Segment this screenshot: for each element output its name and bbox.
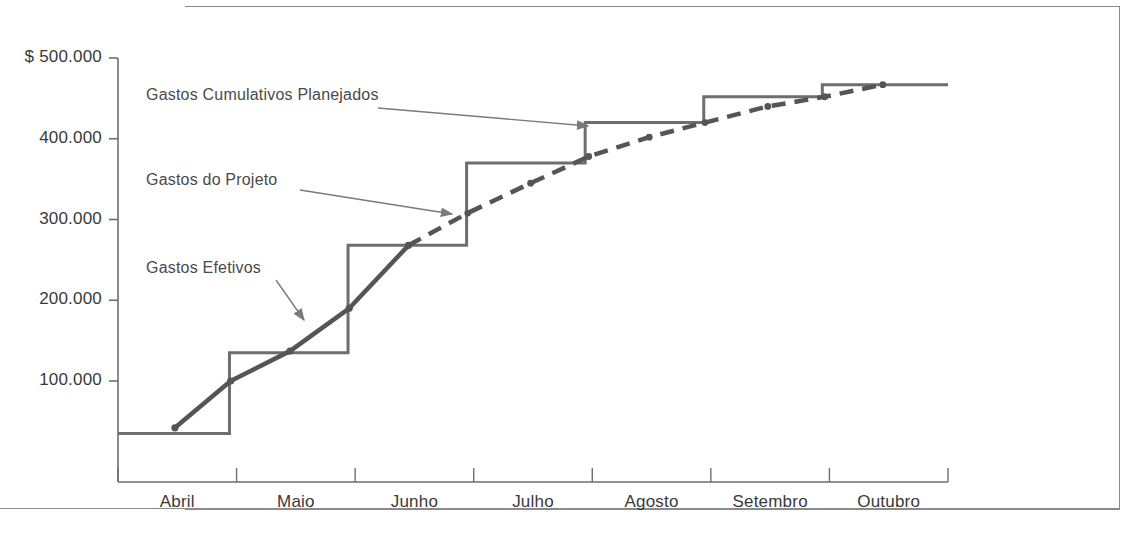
- series-project-point: [464, 210, 471, 217]
- series-project-dashed: [409, 85, 883, 246]
- annotation-arrow-actual: [276, 280, 304, 320]
- series-project-point: [764, 103, 771, 110]
- series-project-point: [527, 180, 534, 187]
- annotation-label-planned: Gastos Cumulativos Planejados: [146, 86, 379, 104]
- series-project-point: [879, 81, 886, 88]
- series-project-point: [585, 153, 592, 160]
- y-axis-tick-label: $ 500.000: [0, 47, 102, 67]
- annotation-arrows: [276, 108, 588, 320]
- series-project-point: [702, 119, 709, 126]
- series-actual-point: [286, 348, 293, 355]
- series-actual-point: [227, 377, 234, 384]
- x-axis-tick-label: Outubro: [819, 492, 959, 512]
- series-group: [118, 81, 948, 433]
- annotation-label-actual: Gastos Efetivos: [146, 259, 261, 277]
- annotation-label-project: Gastos do Projeto: [146, 171, 277, 189]
- chart-page: $ 500.000400.000300.000200.000100.000 Ab…: [0, 0, 1145, 546]
- y-axis-tick-label: 400.000: [0, 128, 102, 148]
- series-project-point: [821, 93, 828, 100]
- series-actual-point: [171, 424, 178, 431]
- series-project-point: [646, 134, 653, 141]
- y-axis-tick-label: 300.000: [0, 209, 102, 229]
- y-axis-tick-label: 100.000: [0, 370, 102, 390]
- series-project-point: [405, 242, 412, 249]
- series-actual-point: [346, 305, 353, 312]
- y-axis-tick-label: 200.000: [0, 289, 102, 309]
- annotation-arrow-project: [300, 190, 452, 214]
- annotation-arrow-planned: [378, 108, 588, 126]
